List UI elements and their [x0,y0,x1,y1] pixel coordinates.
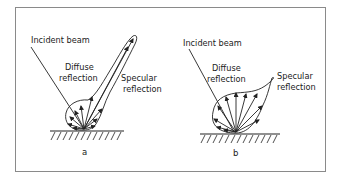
surface-hatching-b [201,135,277,143]
specular-label-a-line2: reflection [123,84,162,94]
panel-caption-a: a [82,147,87,157]
diffuse-label-b-line2: reflection [207,74,246,84]
panel-caption-b: b [233,148,238,158]
surface-hatching-a [51,132,121,140]
specular-label-a-line1: Specular [121,73,157,83]
diffuse-label-a-line2: reflection [59,73,98,83]
incident-beam-a [31,47,84,129]
specular-label-b-line1: Specular [277,71,313,81]
panel-a-drawing [31,35,137,140]
incident-beam-label-b: Incident beam [183,38,242,48]
specular-label-b-line2: reflection [277,82,316,92]
incident-beam-label-a: Incident beam [31,35,90,45]
diffuse-label-a-line1: Diffuse [65,62,94,72]
diffuse-label-b-line1: Diffuse [212,63,241,73]
